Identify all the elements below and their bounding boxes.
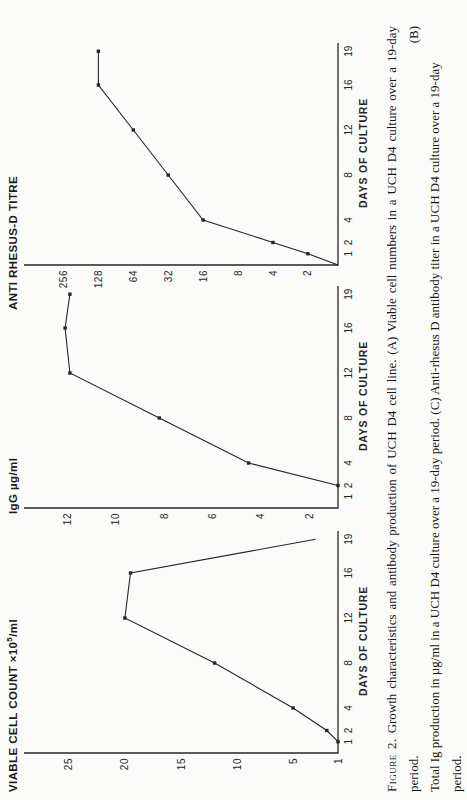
data-point	[97, 50, 100, 53]
x-tick-label: 19	[343, 45, 354, 57]
data-line	[65, 294, 338, 485]
figure-caption: Figure 2. Growth characteristics and ant…	[381, 26, 467, 792]
x-axis-title: DAYS OF CULTURE	[357, 341, 369, 451]
data-point	[68, 371, 71, 374]
data-point	[306, 252, 309, 255]
data-point	[123, 616, 126, 619]
y-tick-label: 25	[63, 758, 74, 770]
y-tick-label: 2	[302, 270, 313, 276]
y-tick-label: 5	[288, 758, 299, 764]
x-tick-label: 1	[343, 250, 354, 256]
x-tick-label: 4	[343, 217, 354, 223]
y-tick-label: 64	[128, 270, 139, 282]
x-tick-label: 1	[343, 738, 354, 744]
x-tick-label: 12	[343, 367, 354, 379]
data-point	[291, 706, 294, 709]
caption-line-2-text: Total Ig production in µg/ml in a UCH D4…	[427, 62, 464, 792]
y-tick-label: 256	[58, 270, 69, 288]
data-point	[158, 416, 161, 419]
caption-line-1: Figure 2. Growth characteristics and ant…	[381, 26, 424, 792]
data-point	[336, 484, 339, 487]
data-point	[336, 740, 339, 743]
data-line	[125, 539, 338, 742]
data-point	[201, 218, 204, 221]
y-tick-label: 10	[110, 513, 121, 525]
x-tick-label: 4	[343, 705, 354, 711]
axes	[24, 43, 338, 265]
y-tick-label: 4	[268, 270, 279, 276]
data-point	[271, 241, 274, 244]
data-point	[325, 729, 328, 732]
chart-c-plot: 2481632641282561248121619DAYS OF CULTURE	[0, 0, 380, 312]
y-tick-label: 12	[62, 513, 73, 525]
x-tick-label: 12	[343, 124, 354, 136]
data-point	[63, 326, 66, 329]
caption-line-2: Total Ig production in µg/ml in a UCH D4…	[424, 26, 467, 792]
data-point	[167, 173, 170, 176]
x-tick-label: 8	[343, 415, 354, 421]
x-axis-title: DAYS OF CULTURE	[357, 586, 369, 696]
x-axis-title: DAYS OF CULTURE	[357, 98, 369, 208]
x-tick-label: 1	[343, 493, 354, 499]
x-tick-label: 2	[343, 482, 354, 488]
x-tick-label: 12	[343, 612, 354, 624]
y-tick-label: 2	[304, 513, 315, 519]
y-tick-label: 6	[207, 513, 218, 519]
y-tick-label: 4	[255, 513, 266, 519]
data-point	[213, 661, 216, 664]
caption-line-1-text: Growth characteristics and antibody prod…	[384, 26, 421, 792]
data-point	[97, 83, 100, 86]
data-point	[247, 461, 250, 464]
x-tick-label: 16	[343, 567, 354, 579]
x-tick-label: 8	[343, 172, 354, 178]
x-tick-label: 4	[343, 460, 354, 466]
x-tick-label: 8	[343, 660, 354, 666]
y-tick-label: 8	[233, 270, 244, 276]
chart-anti-rhesus-titre: ANTI RHESUS-D TITRE 24816326412825612481…	[0, 0, 380, 312]
y-tick-label: 10	[232, 758, 243, 770]
data-point	[129, 571, 132, 574]
axes	[24, 286, 338, 508]
y-tick-label: 8	[159, 513, 170, 519]
x-tick-label: 2	[343, 239, 354, 245]
y-tick-label: 32	[163, 270, 174, 282]
data-line	[98, 51, 338, 265]
data-point	[132, 128, 135, 131]
y-tick-label: 20	[119, 758, 130, 770]
y-tick-label: 128	[93, 270, 104, 288]
y-tick-label: 1	[333, 758, 344, 764]
figure-label: Figure 2.	[384, 738, 399, 792]
y-tick-label: 16	[198, 270, 209, 282]
x-tick-label: 2	[343, 727, 354, 733]
x-tick-label: 16	[343, 322, 354, 334]
y-tick-label: 15	[176, 758, 187, 770]
x-tick-label: 16	[343, 79, 354, 91]
